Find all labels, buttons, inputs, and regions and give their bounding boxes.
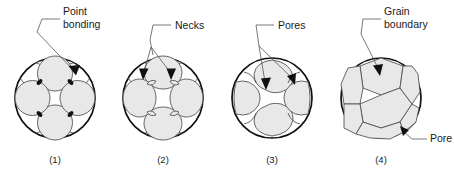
panel-1-label-line-2: bonding bbox=[63, 18, 101, 30]
panel-1-label-line-1: Point bbox=[63, 5, 87, 17]
panel-4-label-line-2: boundary bbox=[384, 18, 429, 30]
panel-2-leader-drop bbox=[150, 25, 153, 55]
panel-1-particle-right bbox=[60, 81, 95, 116]
panel-4-label-line-1: Grain bbox=[384, 5, 410, 17]
panel-4-caption: (4) bbox=[375, 154, 387, 165]
panel-2-caption: (2) bbox=[157, 154, 169, 165]
panel-1-caption: (1) bbox=[49, 154, 61, 165]
panel-3-group: (3) bbox=[232, 58, 312, 165]
panel-4-group: (4) bbox=[341, 58, 421, 165]
panel-3-caption: (3) bbox=[266, 154, 278, 165]
panel-3-leader-drop bbox=[256, 25, 259, 46]
panel-4-grain-left-upper bbox=[341, 66, 363, 104]
panel-3-label: Pores bbox=[278, 19, 305, 31]
panel-1-group: (1) bbox=[15, 56, 95, 165]
panel-3-grain-left bbox=[234, 81, 260, 115]
sintering-stages-figure: (1) Point bonding bbox=[0, 0, 454, 181]
panel-4-pore-label: Pore bbox=[430, 132, 452, 144]
panel-2-group: (2) bbox=[123, 56, 203, 165]
panel-1-particle-left bbox=[15, 81, 50, 116]
figure-canvas: (1) Point bonding bbox=[0, 0, 454, 181]
panel-2-label: Necks bbox=[175, 19, 204, 31]
